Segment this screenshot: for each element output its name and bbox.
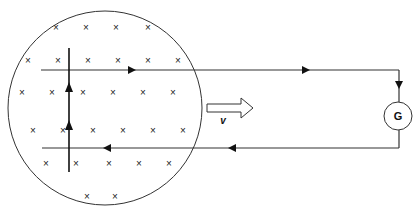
field-mark-x-icon: × (170, 87, 176, 98)
field-mark-x-icon: × (25, 55, 31, 66)
field-mark-x-icon: × (19, 87, 25, 98)
velocity-arrow-icon (207, 98, 253, 118)
field-mark-x-icon: × (145, 55, 151, 66)
field-mark-x-icon: × (113, 22, 119, 33)
field-mark-x-icon: × (84, 191, 90, 202)
field-mark-x-icon: × (120, 125, 126, 136)
field-mark-x-icon: × (60, 125, 66, 136)
field-mark-x-icon: × (106, 158, 112, 169)
velocity-label: v (220, 115, 227, 126)
field-mark-x-icon: × (112, 191, 118, 202)
lower-rail-arrow-icon (103, 144, 111, 152)
upper-wire-arrow-icon (302, 66, 310, 74)
field-mark-x-icon: × (110, 87, 116, 98)
field-mark-x-icon: × (145, 22, 151, 33)
field-mark-x-icon: × (53, 22, 59, 33)
field-mark-x-icon: × (180, 125, 186, 136)
field-region-circle (8, 11, 202, 205)
rod-current-arrow-icon (65, 82, 73, 92)
lower-wire-arrow-icon (228, 144, 236, 152)
field-mark-x-icon: × (115, 55, 121, 66)
field-mark-x-icon: × (49, 87, 55, 98)
galvanometer-label: G (394, 110, 403, 122)
field-mark-x-icon: × (55, 55, 61, 66)
diagram-canvas: ××××××××××××××××××××××××××××× G v (0, 0, 419, 215)
field-mark-x-icon: × (90, 125, 96, 136)
field-mark-x-icon: × (150, 125, 156, 136)
field-mark-x-icon: × (166, 158, 172, 169)
field-mark-x-icon: × (136, 158, 142, 169)
field-mark-x-icon: × (175, 55, 181, 66)
field-mark-x-icon: × (140, 87, 146, 98)
field-mark-x-icon: × (80, 87, 86, 98)
field-mark-x-icon: × (30, 125, 36, 136)
field-mark-x-icon: × (43, 158, 49, 169)
field-mark-x-icon: × (83, 22, 89, 33)
right-wire-arrow-icon (395, 81, 403, 89)
field-marks: ××××××××××××××××××××××××××××× (19, 22, 186, 202)
field-mark-x-icon: × (73, 158, 79, 169)
rod-current-arrow-icon-2 (65, 120, 73, 130)
induction-diagram: ××××××××××××××××××××××××××××× G v (0, 0, 419, 215)
upper-rail-arrow-icon (128, 66, 136, 74)
field-mark-x-icon: × (85, 55, 91, 66)
